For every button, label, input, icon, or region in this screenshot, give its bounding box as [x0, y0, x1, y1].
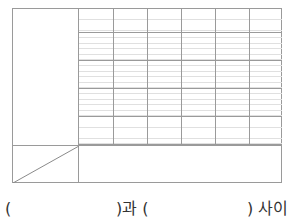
answer-open-paren: ( [5, 197, 11, 221]
answer-blank-2[interactable] [160, 197, 246, 221]
axis-row [13, 145, 281, 182]
diagonal-header-cell[interactable] [13, 146, 79, 183]
graph-table [12, 8, 282, 183]
row-label-column[interactable] [13, 9, 79, 145]
diagonal-line-icon [13, 146, 79, 183]
answer-sentence: ( )과 ( ) 사이 [0, 197, 296, 221]
answer-end-text: ) 사이 [247, 197, 288, 221]
grid-column-divider [181, 9, 182, 145]
clipped-title [110, 0, 190, 4]
answer-blank-1[interactable] [14, 197, 114, 221]
grid-column-divider [113, 9, 114, 145]
grid-column-divider [215, 9, 216, 145]
axis-value-cell[interactable] [79, 146, 281, 183]
grid-column-divider [147, 9, 148, 145]
answer-middle-text: )과 ( [116, 197, 149, 221]
grid-column-divider [249, 9, 250, 145]
graph-grid [79, 9, 282, 145]
